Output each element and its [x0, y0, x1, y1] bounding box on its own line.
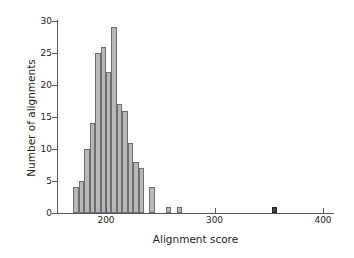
histogram-bar [139, 168, 144, 213]
histogram-bar [166, 207, 171, 213]
x-axis-title: Alignment score [57, 233, 334, 245]
bar-series [0, 0, 354, 258]
y-tick-mark [52, 21, 57, 22]
x-tick-mark [323, 208, 324, 213]
y-axis-title: Number of alignments [25, 23, 37, 213]
x-tick-label: 300 [195, 216, 235, 225]
x-tick-label: 400 [303, 216, 343, 225]
x-tick-mark [106, 208, 107, 213]
y-tick-mark [52, 117, 57, 118]
y-tick-mark [52, 213, 57, 214]
y-tick-mark [52, 181, 57, 182]
histogram-figure: 051015202530 200300400 Alignment score N… [0, 0, 354, 258]
histogram-bar [272, 207, 277, 213]
x-tick-label: 200 [86, 216, 126, 225]
y-tick-mark [52, 85, 57, 86]
histogram-bar [149, 187, 154, 213]
histogram-bar [177, 207, 182, 213]
y-tick-mark [52, 149, 57, 150]
plot-area: 051015202530 200300400 Alignment score N… [0, 0, 354, 258]
y-tick-mark [52, 53, 57, 54]
x-tick-mark [215, 208, 216, 213]
